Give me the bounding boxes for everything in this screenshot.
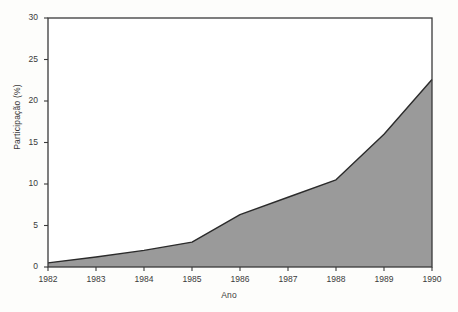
y-tick-label: 0: [16, 261, 38, 271]
chart-canvas: [0, 0, 458, 312]
x-tick-label: 1986: [220, 274, 260, 284]
y-tick-label: 10: [16, 178, 38, 188]
x-axis-title: Ano: [0, 290, 458, 300]
x-tick-label: 1984: [124, 274, 164, 284]
y-axis-title: Participação (%): [12, 72, 22, 162]
y-tick-label: 5: [16, 220, 38, 230]
y-tick-label: 20: [16, 95, 38, 105]
x-tick-label: 1988: [316, 274, 356, 284]
x-tick-label: 1987: [268, 274, 308, 284]
x-tick-label: 1990: [412, 274, 452, 284]
y-tick-label: 25: [16, 54, 38, 64]
area-chart-figure: Participação (%) Ano 051015202530 198219…: [0, 0, 458, 312]
x-tick-label: 1983: [76, 274, 116, 284]
x-tick-label: 1985: [172, 274, 212, 284]
y-tick-label: 30: [16, 12, 38, 22]
x-tick-label: 1982: [28, 274, 68, 284]
y-tick-label: 15: [16, 137, 38, 147]
x-tick-label: 1989: [364, 274, 404, 284]
